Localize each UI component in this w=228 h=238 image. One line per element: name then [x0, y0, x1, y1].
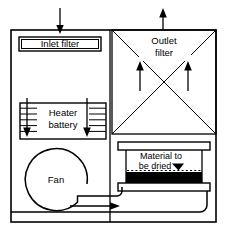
material-bed	[126, 172, 202, 183]
inlet-filter-component: Inlet filter	[19, 37, 101, 51]
inlet-filter-label: Inlet filter	[41, 38, 80, 49]
heater-battery-component: Heater battery	[20, 98, 106, 139]
diagram-canvas: Inlet filter Heater battery	[0, 0, 228, 238]
duct-flow-arrow-icon	[70, 202, 120, 210]
outlet-air-arrow-icon	[159, 8, 167, 30]
material-label-line1: Material to	[140, 151, 182, 161]
material-pointer-arrow-icon	[172, 164, 184, 171]
outlet-riser-arrow-right-icon	[184, 61, 192, 91]
outlet-riser-arrow-left-icon	[136, 61, 144, 91]
outlet-filter-label-line1: Outlet	[151, 35, 177, 46]
outlet-filter-label-line2: filter	[155, 47, 173, 58]
outlet-filter-component: Outlet filter	[112, 30, 216, 134]
heater-battery-label-line1: Heater	[49, 107, 78, 118]
heater-battery-label-line2: battery	[48, 119, 77, 130]
chamber-bottom-flange	[118, 183, 210, 191]
fan-component: Fan	[25, 149, 110, 211]
material-chamber-component: Material to be dried	[118, 142, 210, 191]
chamber-top-flange	[118, 142, 210, 150]
fan-label: Fan	[48, 174, 64, 185]
material-label-line2: be dried	[139, 161, 172, 171]
drying-system-diagram: Inlet filter Heater battery	[0, 0, 228, 238]
